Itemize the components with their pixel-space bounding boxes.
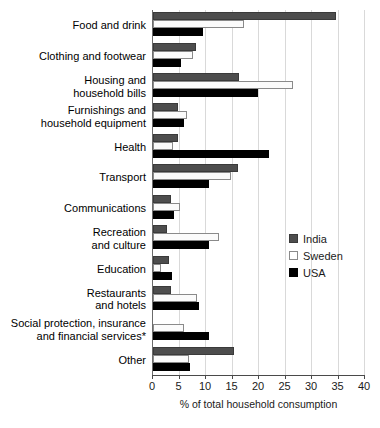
bar-group: Clothing and footwear [152,40,364,70]
bar-group: Furnishings andhousehold equipment [152,101,364,131]
category-label: Transport [99,171,146,184]
bar-india [153,286,171,294]
bar-india [153,347,234,355]
bar-sweden [153,233,219,241]
bar-group: Food and drink [152,10,364,40]
x-axis-title: % of total household consumption [152,398,365,410]
bar-sweden [153,20,244,28]
x-axis-tick [285,375,286,379]
bar-sweden [153,142,173,150]
legend-swatch-usa-icon [289,268,298,277]
x-axis-tick [338,375,339,379]
bar-india [153,73,239,81]
legend-label: Sweden [303,250,343,262]
bar-group: Transport [152,162,364,192]
category-label: Education [97,262,146,275]
x-axis-tick-label: 15 [225,380,237,392]
bar-usa [153,241,209,249]
bar-group: Other [152,345,364,375]
bar-group: Restaurantsand hotels [152,284,364,314]
x-axis-tick [152,375,153,379]
legend-item-india: India [289,230,343,247]
x-axis-tick-label: 10 [199,380,211,392]
legend-label: India [303,233,327,245]
x-axis-tick-label: 5 [175,380,181,392]
legend-item-usa: USA [289,264,343,281]
legend-swatch-india-icon [289,234,298,243]
bar-sweden [153,264,161,272]
bar-usa [153,150,269,158]
bar-sweden [153,203,180,211]
bar-usa [153,332,209,340]
bar-india [153,195,171,203]
bar-india [153,43,196,51]
bar-sweden [153,111,187,119]
x-axis-tick [311,375,312,379]
chart-legend: IndiaSwedenUSA [289,230,343,281]
bar-usa [153,211,174,219]
bar-sweden [153,81,293,89]
category-label: Furnishings andhousehold equipment [41,104,146,129]
category-label: Communications [64,201,146,214]
category-label: Clothing and footwear [39,49,146,62]
x-axis-tick [205,375,206,379]
bar-usa [153,28,203,36]
bar-india [153,103,178,111]
plot-area: Food and drinkClothing and footwearHousi… [152,10,364,375]
bar-india [153,164,238,172]
category-label: Social protection, insuranceand financia… [11,317,146,342]
bar-india [153,134,178,142]
bar-group: Communications [152,193,364,223]
bar-india [153,12,336,20]
bar-india [153,256,169,264]
category-label: Recreationand culture [92,226,146,251]
legend-label: USA [303,267,326,279]
bar-group: Housing andhousehold bills [152,71,364,101]
bar-sweden [153,172,231,180]
x-axis-tick [258,375,259,379]
bar-sweden [153,51,193,59]
x-axis-tick-label: 20 [252,380,264,392]
x-axis-tick-label: 0 [149,380,155,392]
bar-usa [153,180,209,188]
bar-group: Social protection, insuranceand financia… [152,314,364,344]
category-label: Housing andhousehold bills [73,74,146,99]
bar-usa [153,363,190,371]
bar-usa [153,89,258,97]
bar-india [153,225,167,233]
category-label: Health [114,141,146,154]
bar-usa [153,59,181,67]
category-label: Food and drink [73,19,146,32]
x-axis-tick [232,375,233,379]
legend-swatch-sweden-icon [289,251,298,260]
x-axis-tick [364,375,365,379]
x-axis-tick [179,375,180,379]
bar-chart: Food and drinkClothing and footwearHousi… [0,0,380,428]
x-axis-tick-label: 30 [305,380,317,392]
bar-group: Health [152,132,364,162]
legend-item-sweden: Sweden [289,247,343,264]
bar-sweden [153,324,184,332]
bar-usa [153,272,172,280]
bar-sweden [153,355,189,363]
gridline [364,10,365,375]
bar-usa [153,119,184,127]
category-label: Restaurantsand hotels [87,286,146,311]
bar-usa [153,302,199,310]
bar-sweden [153,294,197,302]
x-axis-tick-label: 35 [331,380,343,392]
x-axis-tick-label: 40 [358,380,370,392]
category-label: Other [118,354,146,367]
x-axis-tick-label: 25 [278,380,290,392]
